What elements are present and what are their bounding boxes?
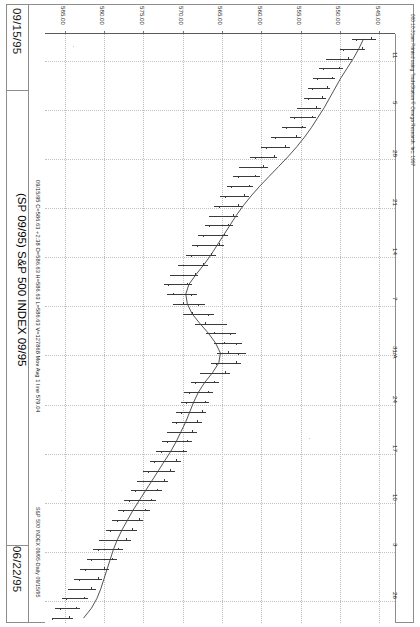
date-axis-label: 10 (392, 494, 399, 501)
date-axis-label: 17 (392, 445, 399, 452)
price-axis: 585.00580.00575.00570.00565.00560.00555.… (45, 4, 395, 34)
date-axis-label: 21 (392, 199, 399, 206)
copyright-column: 000 10.31am Printed using TradeStation ©… (406, 6, 418, 621)
date-axis-label: 11 (392, 52, 399, 58)
date-axis-label: 5 (392, 101, 399, 104)
date-axis-label: 26 (392, 592, 399, 599)
price-axis-label: 570.00 (178, 6, 185, 25)
date-axis-label: 14 (392, 248, 399, 255)
price-axis-label: 550.00 (335, 6, 342, 25)
price-axis-label: 545.00 (375, 6, 382, 25)
price-axis-label: 585.00 (60, 6, 67, 25)
date-axis-label: 3 (392, 543, 399, 546)
price-axis-label: 565.00 (217, 6, 224, 25)
quote-line: 09/15/95 C=586.63 +2.38 O=586.63 H=586.6… (35, 180, 41, 413)
date-axis-label: 7 (392, 297, 399, 300)
plot-area (45, 34, 395, 623)
date-axis-label: 28 (392, 150, 399, 157)
date-axis-label: 31/A (392, 346, 399, 359)
date-range-start: 06/22/95 (11, 546, 23, 592)
price-axis-label: 575.00 (139, 6, 146, 25)
page-title: (SP 09/95) S&P 500 INDEX 09/95 (16, 193, 28, 366)
date-axis-label: 24 (392, 396, 399, 403)
chart-page: 09/15/95 06/22/95 (SP 09/95) S&P 500 IND… (0, 0, 420, 627)
price-axis-label: 555.00 (296, 6, 303, 25)
symbol-line: S&P 500 INDEX 09/95-Daily 09/15/95 (35, 507, 41, 597)
price-axis-label: 580.00 (99, 6, 106, 25)
price-axis-label: 560.00 (257, 6, 264, 25)
copyright-notice: 000 10.31am Printed using TradeStation ©… (410, 14, 415, 166)
moving-average-line (45, 34, 395, 623)
date-range-end: 09/15/95 (11, 8, 23, 54)
